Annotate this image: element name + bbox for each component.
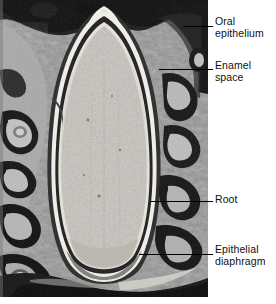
label-oral-epithelium: Oral epithelium	[215, 16, 264, 39]
label-epithelial-diaphragm: Epithelial diaphragm	[215, 244, 266, 267]
tooth-development-micrograph	[0, 0, 208, 297]
label-enamel-space: Enamel space	[215, 60, 251, 83]
leader-line-epithelial-diaphragm	[139, 254, 213, 255]
leader-line-enamel-space	[159, 69, 213, 70]
leader-line-oral-epithelium	[183, 26, 213, 27]
label-root: Root	[215, 194, 238, 206]
leader-line-root	[150, 201, 213, 202]
figure-panel: Oral epithelium Enamel space Root Epithe…	[0, 0, 276, 304]
